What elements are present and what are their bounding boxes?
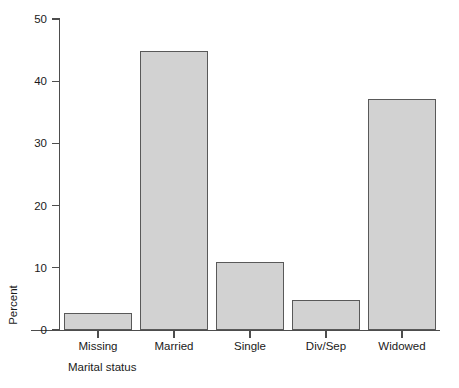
x-tick-mark	[401, 331, 402, 338]
bar	[216, 262, 284, 330]
y-tick-label: 30	[0, 137, 47, 149]
y-tick-mark	[52, 267, 59, 268]
x-tick-label: Widowed	[364, 340, 440, 353]
y-tick-label: 50	[0, 13, 47, 25]
x-axis-title: Marital status	[68, 361, 136, 373]
x-tick-label: Div/Sep	[288, 340, 364, 353]
bar	[64, 313, 132, 330]
y-tick-mark	[52, 205, 59, 206]
bar-chart-figure: 01020304050 MissingMarriedSingleDiv/SepW…	[0, 0, 459, 388]
y-tick-mark	[52, 18, 59, 19]
x-tick-mark	[325, 331, 326, 338]
x-axis-line	[31, 330, 440, 331]
x-tick-mark	[249, 331, 250, 338]
y-tick-mark	[52, 329, 59, 330]
x-tick-label: Married	[136, 340, 212, 353]
y-axis-line	[59, 18, 60, 331]
y-tick-label: 40	[0, 75, 47, 87]
bar	[368, 99, 436, 330]
y-tick-label: 20	[0, 200, 47, 212]
bar	[140, 51, 208, 330]
x-tick-label: Single	[212, 340, 288, 353]
y-axis-title: Percent	[7, 270, 19, 340]
y-tick-mark	[52, 81, 59, 82]
y-tick-mark	[52, 143, 59, 144]
bar	[292, 300, 360, 330]
x-tick-mark	[173, 331, 174, 338]
x-tick-label: Missing	[60, 340, 136, 353]
x-tick-mark	[97, 331, 98, 338]
